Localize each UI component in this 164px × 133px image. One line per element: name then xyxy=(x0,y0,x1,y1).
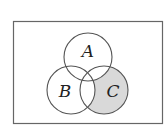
label-b: B xyxy=(58,81,72,101)
venn-diagram: A B C xyxy=(0,0,164,133)
label-a: A xyxy=(80,41,94,61)
label-c: C xyxy=(106,81,119,101)
